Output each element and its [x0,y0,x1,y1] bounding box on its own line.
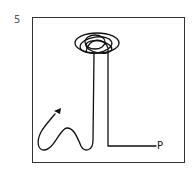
end-label: P [157,140,163,151]
start-marker-icon [54,108,61,114]
left-descender [38,54,94,150]
path-trace-diagram [0,0,192,173]
right-descender [108,50,156,146]
